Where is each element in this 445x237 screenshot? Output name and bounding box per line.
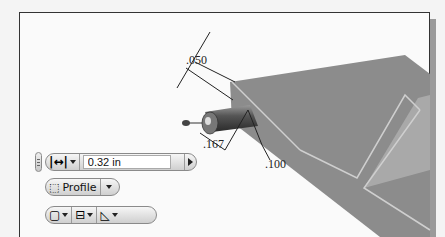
chevron-down-icon	[62, 213, 68, 217]
distance-mode-dropdown[interactable]: |↔|	[46, 154, 80, 170]
chevron-down-icon	[112, 213, 118, 217]
mini-toolbar-row-1: |↔|	[35, 152, 197, 172]
dimension-offset[interactable]: .167	[203, 137, 224, 152]
dimension-thickness[interactable]: .050	[186, 53, 207, 68]
distance-value-input[interactable]	[83, 155, 171, 169]
direction-dropdown[interactable]: ⊟	[72, 207, 97, 223]
pin-tip	[182, 120, 190, 126]
chevron-down-icon	[70, 160, 76, 164]
profile-select-icon: ⬚	[49, 181, 59, 194]
chevron-down-icon	[106, 185, 112, 189]
taper-dropdown[interactable]: ◺	[97, 207, 120, 223]
distance-control: |↔|	[45, 153, 197, 171]
mini-toolbar-row-3: ▢ ⊟ ◺	[45, 206, 157, 224]
solid-box-icon: ▢	[49, 208, 60, 222]
extrude-direction-icon: ⊟	[75, 208, 85, 222]
apply-button[interactable]	[185, 154, 196, 170]
chevron-down-icon	[87, 213, 93, 217]
distance-icon: |↔|	[49, 155, 68, 169]
toolbar-grip-handle[interactable]	[35, 152, 42, 172]
cad-model-scene	[0, 0, 445, 237]
profile-label: Profile	[62, 181, 96, 194]
mini-toolbar-row-2: ⬚ Profile	[45, 178, 120, 196]
play-arrow-icon	[188, 158, 193, 166]
taper-icon: ◺	[100, 208, 109, 222]
profile-button[interactable]: ⬚ Profile	[46, 179, 101, 195]
dimension-depth[interactable]: .100	[265, 157, 286, 172]
profile-dropdown[interactable]	[101, 179, 115, 195]
output-type-dropdown[interactable]: ▢	[46, 207, 72, 223]
